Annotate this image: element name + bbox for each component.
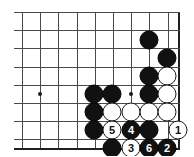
grid-line-horizontal-1 (14, 12, 180, 13)
grid-line-horizontal-3 (14, 48, 180, 49)
black-stone-r2c8[interactable] (140, 31, 159, 50)
stone-move-number: 4 (128, 124, 134, 135)
move-stone-1[interactable]: 1 (169, 121, 188, 140)
move-stone-4[interactable]: 4 (122, 121, 141, 140)
black-stone-r6c5[interactable] (85, 103, 104, 122)
star-point-right (129, 92, 133, 96)
white-stone-r6c8[interactable] (140, 103, 159, 122)
stone-move-number: 6 (146, 142, 152, 153)
black-stone-r4c8[interactable] (140, 67, 159, 86)
stone-move-number: 1 (175, 124, 181, 135)
move-stone-3[interactable]: 3 (122, 139, 141, 157)
move-stone-5[interactable]: 5 (103, 121, 122, 140)
move-stone-2[interactable]: 2 (158, 139, 177, 157)
black-stone-r5c8[interactable] (140, 85, 159, 104)
white-stone-r6c6[interactable] (103, 103, 122, 122)
stone-move-number: 2 (164, 142, 170, 153)
white-stone-r6c7[interactable] (122, 103, 141, 122)
grid-line-vertical-2 (40, 12, 41, 148)
star-point-left (38, 92, 42, 96)
black-stone-r5c5[interactable] (85, 85, 104, 104)
grid-line-horizontal-2 (14, 30, 180, 31)
black-stone-r7c5[interactable] (85, 121, 104, 140)
grid-line-vertical-3 (58, 12, 59, 148)
white-stone-r5c9[interactable] (158, 85, 177, 104)
black-stone-r7c8[interactable] (140, 121, 159, 140)
go-board: 541362 (0, 0, 194, 156)
black-stone-r8c6[interactable] (103, 139, 122, 157)
stone-move-number: 5 (109, 124, 115, 135)
grid-line-vertical-1 (22, 12, 23, 148)
stone-move-number: 3 (128, 142, 134, 153)
move-stone-6[interactable]: 6 (140, 139, 159, 157)
black-stone-r3c9[interactable] (158, 49, 177, 68)
white-stone-r4c9[interactable] (158, 67, 177, 86)
black-stone-r5c6[interactable] (103, 85, 122, 104)
grid-line-vertical-4 (77, 12, 78, 148)
white-stone-r6c9[interactable] (158, 103, 177, 122)
